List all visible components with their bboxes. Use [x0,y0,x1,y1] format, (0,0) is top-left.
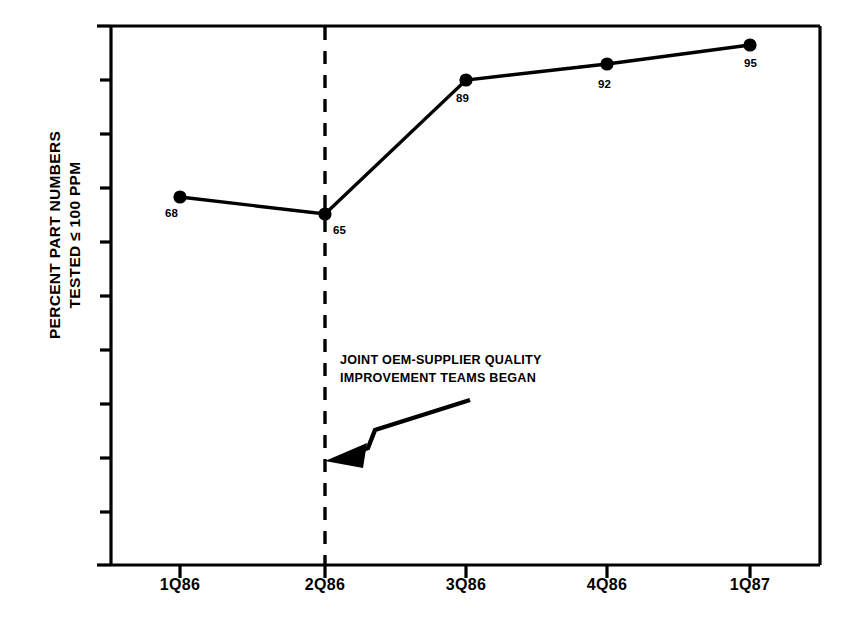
axis-frame [111,26,820,565]
data-point-marker [173,190,186,203]
x-tick-label-1q86: 1Q86 [120,576,240,594]
y-axis-ticks [97,26,111,565]
data-point-marker [459,73,472,86]
data-label-95: 95 [744,57,757,69]
annotation-arrow-icon [325,400,470,468]
data-point-markers [173,38,756,220]
data-line [180,45,750,214]
annotation-callout-text: JOINT OEM-SUPPLIER QUALITY IMPROVEMENT T… [340,352,542,388]
data-label-89: 89 [456,92,469,104]
x-tick-label-2q86: 2Q86 [265,576,385,594]
x-tick-label-1q87: 1Q87 [690,576,810,594]
data-label-68: 68 [165,207,178,219]
data-point-marker [743,38,756,51]
plot-area [0,0,846,626]
annotation-line-1: JOINT OEM-SUPPLIER QUALITY [340,352,542,370]
x-tick-label-3q86: 3Q86 [406,576,526,594]
data-point-marker [318,207,331,220]
data-label-65: 65 [333,224,346,236]
chart-figure: PERCENT PART NUMBERS TESTED ≤ 100 PPM [0,0,846,626]
data-point-marker [600,57,613,70]
annotation-line-2: IMPROVEMENT TEAMS BEGAN [340,370,542,388]
x-tick-label-4q86: 4Q86 [547,576,667,594]
data-label-92: 92 [598,78,611,90]
